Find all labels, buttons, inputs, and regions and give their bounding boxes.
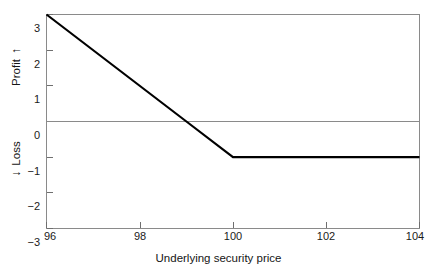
arrow-up-icon: ↑ bbox=[10, 48, 22, 54]
y-axis-title-loss-text: Loss bbox=[10, 141, 22, 165]
x-tick-marks bbox=[47, 222, 420, 228]
payoff-line-series bbox=[47, 15, 420, 158]
y-axis-title-loss: ↓ Loss bbox=[7, 79, 25, 239]
x-tick-label-102: 102 bbox=[317, 231, 335, 242]
x-tick-label-104: 104 bbox=[406, 231, 424, 242]
x-axis-title: Underlying security price bbox=[0, 252, 437, 265]
chart-container: 3 2 1 0 −1 −2 −3 96 98 100 102 104 Profi… bbox=[0, 0, 437, 273]
arrow-down-icon: ↓ bbox=[10, 171, 22, 177]
x-tick-label-96: 96 bbox=[44, 231, 56, 242]
x-tick-label-100: 100 bbox=[224, 231, 242, 242]
x-tick-label-98: 98 bbox=[134, 231, 146, 242]
x-axis-tick-labels: 96 98 100 102 104 bbox=[46, 231, 420, 247]
